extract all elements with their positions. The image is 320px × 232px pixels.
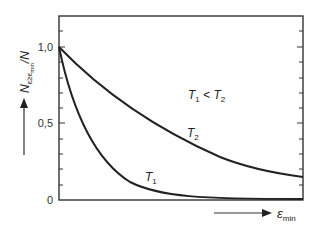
arrow-up-icon — [20, 98, 28, 108]
y-tick-0-5: 0,5 — [38, 117, 53, 129]
curve-t2 — [59, 47, 303, 177]
x-axis-label: εmin — [277, 206, 296, 223]
y-axis-label: Nε≥εmin/N — [18, 51, 35, 93]
curve-t1 — [59, 47, 303, 199]
y-tick-1-0: 1,0 — [38, 41, 53, 53]
relation-annotation: T1 < T2 — [188, 88, 226, 104]
curve-label-t1: T1 — [145, 170, 157, 186]
plot-frame — [59, 16, 303, 200]
right-ticks — [297, 31, 303, 185]
curve-label-t2: T2 — [187, 126, 199, 142]
y-tick-0: 0 — [47, 194, 53, 206]
x-axis-arrow — [214, 209, 272, 217]
arrow-right-icon — [262, 209, 272, 217]
chart-canvas: 1,0 0,5 0 T1 T2 T1 < T2 εmin Nε≥εmin/N — [0, 0, 320, 232]
y-axis-arrow — [20, 98, 28, 155]
